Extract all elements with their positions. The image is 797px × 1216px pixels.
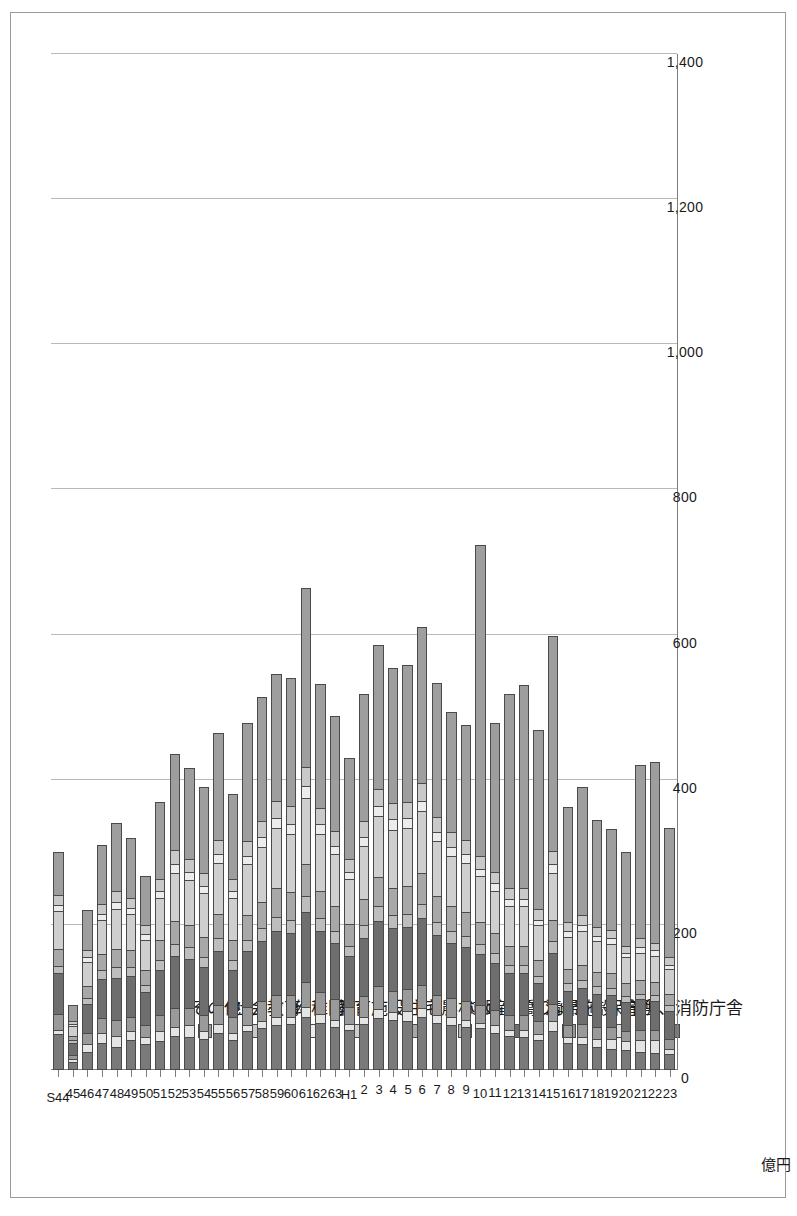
bar-segment (460, 913, 470, 936)
bar-segment (271, 1018, 281, 1027)
bar-segment (111, 892, 121, 904)
bar-segment (475, 945, 485, 955)
bar-segment (446, 1026, 456, 1070)
bar-segment (213, 733, 223, 840)
bar-segment (198, 938, 208, 958)
bar-segment (431, 1016, 441, 1023)
category-axis-tick-label: 53 (182, 1086, 196, 1101)
bar-segment (402, 1012, 412, 1022)
bar-segment (125, 909, 135, 915)
bar-segment (431, 842, 441, 897)
bar-segment (256, 1029, 266, 1070)
bar-segment (606, 974, 616, 989)
bar-row (387, 668, 397, 1070)
bar-segment (431, 1024, 441, 1070)
bar-segment (402, 829, 412, 887)
bar-segment (591, 1040, 601, 1049)
bar-segment (125, 1041, 135, 1070)
category-tick-mark (553, 1070, 554, 1077)
bar-segment (111, 823, 121, 891)
bar-segment (562, 984, 572, 991)
bar-segment (140, 926, 150, 935)
bar-segment (82, 999, 92, 1005)
bar-segment (562, 992, 572, 1027)
bar-segment (213, 855, 223, 864)
bar-segment (606, 1040, 616, 1050)
bar-segment (533, 1022, 543, 1035)
bar-segment (577, 966, 587, 982)
bar-segment (271, 802, 281, 819)
bar-segment (256, 822, 266, 838)
bar-segment (169, 1037, 179, 1070)
bar-segment (96, 905, 106, 915)
bar-segment (315, 835, 325, 892)
bar-segment (169, 851, 179, 866)
bar-segment (300, 588, 310, 768)
bar-segment (402, 928, 412, 990)
category-tick-mark (436, 1070, 437, 1077)
bar-segment (169, 1009, 179, 1028)
bar-segment (577, 926, 587, 932)
bar-segment (387, 929, 397, 991)
bar-segment (256, 1022, 266, 1029)
bar-segment (504, 1016, 514, 1031)
bar-segment (358, 997, 368, 1017)
bar-segment (562, 932, 572, 938)
bar-segment (431, 818, 441, 834)
bar-segment (606, 1050, 616, 1070)
bar-segment (518, 889, 528, 901)
bar-segment (416, 874, 426, 904)
bar-segment (460, 937, 470, 949)
bar-row (344, 758, 354, 1070)
bar-segment (606, 931, 616, 940)
bar-segment (504, 966, 514, 975)
value-axis-tick-label: 1,200 (666, 199, 703, 215)
bar-segment (154, 899, 164, 941)
bar-segment (169, 945, 179, 957)
bar-segment (489, 964, 499, 1010)
bar-segment (620, 1042, 630, 1051)
bar-segment (285, 996, 295, 1018)
bar-segment (446, 944, 456, 999)
bar-segment (198, 1040, 208, 1070)
bar-segment (213, 1006, 223, 1025)
bar-row (649, 762, 659, 1070)
bar-segment (649, 996, 659, 1002)
bar-segment (111, 910, 121, 949)
bar-segment (125, 915, 135, 951)
bar-segment (67, 1063, 77, 1070)
bar-segment (154, 961, 164, 971)
bar-row (96, 845, 106, 1070)
bar-segment (533, 1035, 543, 1041)
category-tick-mark (189, 1070, 190, 1077)
bar-row (125, 838, 135, 1070)
bar-segment (53, 906, 63, 912)
bar-segment (475, 1024, 485, 1030)
bar-segment (635, 982, 645, 995)
bar-segment (416, 919, 426, 986)
category-axis-tick-label: 57 (240, 1086, 254, 1101)
bar-segment (416, 1009, 426, 1018)
bar-segment (548, 1005, 558, 1022)
category-axis-tick-label: H1 (341, 1087, 358, 1102)
category-tick-mark (320, 1070, 321, 1077)
bar-row (475, 545, 485, 1070)
bar-segment (315, 825, 325, 835)
bar-segment (67, 1025, 77, 1026)
bar-segment (53, 967, 63, 974)
bar-segment (387, 1021, 397, 1070)
bar-segment (184, 881, 194, 926)
bar-segment (82, 1045, 92, 1052)
bar-segment (256, 848, 266, 903)
bar-segment (242, 842, 252, 857)
bar-row (533, 730, 543, 1070)
bar-segment (96, 1034, 106, 1044)
bar-segment (504, 974, 514, 1016)
bar-segment (285, 678, 295, 807)
bar-segment (213, 939, 223, 952)
category-tick-mark (669, 1070, 670, 1077)
bar-segment (271, 1026, 281, 1070)
bar-segment (591, 820, 601, 927)
bar-row (242, 723, 252, 1070)
bar-row (635, 765, 645, 1070)
